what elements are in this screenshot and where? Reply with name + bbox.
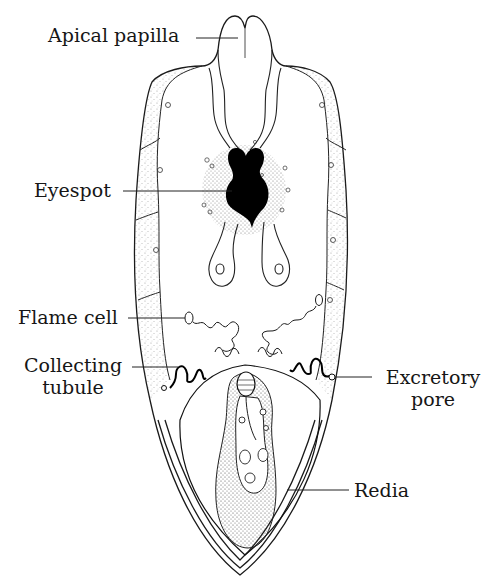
apical-gland: [209, 28, 281, 150]
label-excretory-pore-line2: pore: [376, 388, 490, 410]
label-flame-cell: Flame cell: [18, 306, 118, 328]
miracidium-diagram: Apical papilla Eyespot Flame cell Collec…: [0, 0, 492, 582]
label-excretory-pore: Excretory pore: [376, 366, 490, 410]
diagram-drawing: [0, 0, 492, 582]
excretory-system: [185, 295, 323, 357]
label-eyespot: Eyespot: [34, 179, 111, 201]
label-excretory-pore-line1: Excretory: [376, 366, 490, 388]
label-collecting-tubule-line1: Collecting: [18, 354, 128, 376]
label-apical-papilla: Apical papilla: [48, 24, 179, 46]
label-collecting-tubule: Collecting tubule: [18, 354, 128, 398]
label-collecting-tubule-line2: tubule: [18, 376, 128, 398]
redia-shape: [216, 372, 276, 548]
label-redia: Redia: [354, 479, 409, 501]
